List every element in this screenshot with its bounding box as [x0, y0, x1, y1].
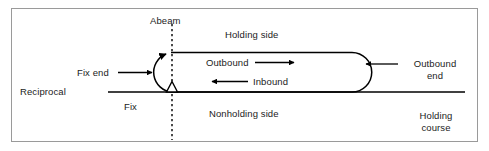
label-reciprocal: Reciprocal: [20, 86, 66, 98]
label-nonholding-side: Nonholding side: [209, 108, 279, 120]
label-outbound: Outbound: [206, 57, 249, 69]
label-holding-course: Holding course: [405, 110, 467, 133]
label-outbound-end-line1: Outbound: [404, 58, 466, 70]
label-outbound-end-line2: end: [404, 70, 466, 82]
label-holding-course-line2: course: [405, 122, 467, 134]
label-holding-side: Holding side: [225, 29, 278, 41]
label-fix-end: Fix end: [77, 67, 109, 79]
holding-pattern-screenshot: Abeam Holding side Outbound Inbound Fix …: [0, 0, 489, 151]
label-holding-course-line1: Holding: [405, 110, 467, 122]
label-abeam: Abeam: [150, 15, 181, 27]
fix-triangle-marker: [167, 82, 178, 93]
label-outbound-end: Outbound end: [404, 58, 466, 81]
label-fix: Fix: [124, 101, 137, 113]
label-inbound: Inbound: [253, 76, 288, 88]
